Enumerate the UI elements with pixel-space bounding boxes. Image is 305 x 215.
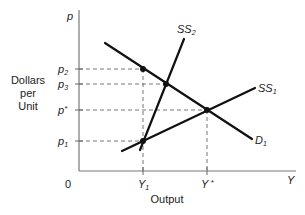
curve-label-SS2: SS2 (177, 23, 196, 36)
x-axis-title: Output (150, 193, 183, 205)
point-p1 (140, 138, 146, 144)
x-axis-symbol: Y (287, 174, 295, 186)
y-axis-title-line-2: per (20, 87, 36, 99)
point-p2 (140, 66, 146, 72)
tick-label-p3: p3 (57, 78, 68, 91)
diagram-canvas: p Y 0 Dollars per Unit Output p2 p3 p* p… (0, 0, 305, 215)
origin-label: 0 (65, 178, 71, 190)
curve-label-SS1: SS1 (258, 82, 277, 95)
tick-label-p1: p1 (57, 135, 68, 148)
curve-SS2 (140, 39, 184, 150)
point-equilibrium (204, 107, 210, 113)
tick-label-Ystar: Y * (201, 178, 215, 190)
y-axis-symbol: p (66, 10, 73, 22)
tick-label-pstar: p* (57, 104, 68, 116)
y-axis-title-line-3: Unit (18, 100, 38, 112)
curve-label-D1: D1 (255, 134, 267, 147)
tick-label-Y1: Y1 (138, 178, 149, 191)
tick-label-p2: p2 (57, 63, 68, 76)
y-axis-title-line-1: Dollars (11, 74, 46, 86)
point-p3 (163, 81, 169, 87)
